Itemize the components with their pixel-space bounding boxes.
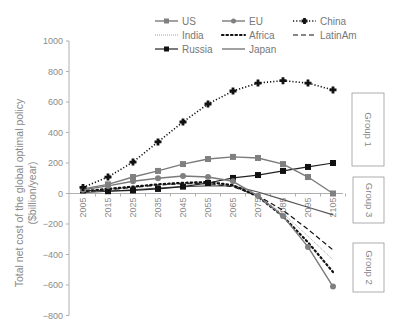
x-square-marker xyxy=(255,172,261,178)
y-tick-label: −400 xyxy=(43,250,63,260)
legend-label: EU xyxy=(249,16,263,27)
x-square-marker xyxy=(330,160,336,166)
x-square-marker xyxy=(180,184,186,190)
chart: USEUChinaIndiaAfricaLatinAmRussiaJapan T… xyxy=(0,0,404,334)
line-china xyxy=(83,81,333,188)
y-tick-label: 600 xyxy=(48,97,63,107)
cross-marker xyxy=(130,159,137,166)
square-marker xyxy=(330,191,336,197)
x-tick-label: 2055 xyxy=(203,198,213,218)
legend-item-china: China xyxy=(293,16,347,27)
square-marker xyxy=(105,181,111,187)
legend-item-india: India xyxy=(155,30,204,41)
cross-marker xyxy=(105,174,112,181)
y-axis-title-line2: ($billion/year) xyxy=(26,161,38,224)
circle-marker xyxy=(180,173,186,179)
cross-marker xyxy=(330,86,337,93)
group-3-annotation: Group 3 xyxy=(353,177,384,223)
x-tick-label: 2035 xyxy=(153,198,163,218)
square-marker xyxy=(280,161,286,167)
series-layer xyxy=(80,77,337,289)
y-tick-label: 200 xyxy=(48,158,63,168)
y-axis-title-line1: Total net cost of the global optimal pol… xyxy=(13,98,25,287)
cross-marker xyxy=(255,80,262,87)
group-1-annotation: Group 1 xyxy=(352,93,384,166)
x-square-marker xyxy=(155,186,161,192)
x-tick-label: 2025 xyxy=(128,198,138,218)
legend-item-eu: EU xyxy=(222,16,263,27)
square-marker xyxy=(180,161,186,167)
legend-label: US xyxy=(182,16,196,27)
x-tick-label: 2015 xyxy=(103,198,113,218)
square-marker xyxy=(130,174,136,180)
x-square-marker xyxy=(105,188,111,194)
group-2-annotation: Group 2 xyxy=(353,243,384,292)
circle-marker xyxy=(155,175,161,181)
legend-item-japan: Japan xyxy=(222,44,276,55)
legend-item-russia: Russia xyxy=(155,44,213,55)
square-marker xyxy=(305,174,311,180)
legend-label: Russia xyxy=(182,44,213,55)
y-tick-label: −200 xyxy=(43,219,63,229)
y-axis-title: Total net cost of the global optimal pol… xyxy=(13,98,38,287)
y-tick-label: 800 xyxy=(48,67,63,77)
cross-marker xyxy=(280,77,287,84)
x-tick-label: 2045 xyxy=(178,198,188,218)
legend-label: China xyxy=(320,16,347,27)
legend-label: Africa xyxy=(249,30,275,41)
cross-marker xyxy=(302,18,308,24)
square-marker xyxy=(164,19,169,24)
legend-label: LatinAm xyxy=(320,30,357,41)
square-marker xyxy=(230,154,236,160)
circle-marker xyxy=(205,174,211,180)
y-tick-label: 400 xyxy=(48,128,63,138)
y-tick-label: 0 xyxy=(58,189,63,199)
square-marker xyxy=(205,156,211,162)
x-square-marker xyxy=(305,164,311,170)
circle-marker xyxy=(255,193,261,199)
cross-marker xyxy=(155,138,162,145)
circle-marker xyxy=(330,284,336,290)
series-china xyxy=(80,77,337,191)
cross-marker xyxy=(305,80,312,87)
legend: USEUChinaIndiaAfricaLatinAmRussiaJapan xyxy=(155,16,357,55)
circle-marker xyxy=(305,244,311,250)
circle-marker xyxy=(231,19,236,24)
line-eu xyxy=(83,176,333,287)
cross-marker xyxy=(230,88,237,95)
y-axis: 10008006004002000−200−400−600−800 xyxy=(43,36,69,321)
x-tick-label: 2065 xyxy=(228,198,238,218)
y-tick-label: −800 xyxy=(43,311,63,321)
x-tick-label: 2075 xyxy=(253,198,263,218)
legend-item-us: US xyxy=(155,16,196,27)
circle-marker xyxy=(230,178,236,184)
y-tick-label: −600 xyxy=(43,280,63,290)
legend-item-latinam: LatinAm xyxy=(293,30,357,41)
group-2-label: Group 2 xyxy=(364,250,375,284)
x-square-marker xyxy=(130,187,136,193)
y-tick-label: 1000 xyxy=(43,36,63,46)
group-1-label: Group 1 xyxy=(363,112,374,146)
legend-label: Japan xyxy=(249,44,276,55)
group-3-label: Group 3 xyxy=(364,183,375,217)
square-marker xyxy=(255,155,261,161)
x-square-marker xyxy=(205,180,211,186)
square-marker xyxy=(155,168,161,174)
x-tick-label: 2005 xyxy=(78,198,88,218)
x-square-marker xyxy=(280,168,286,174)
legend-label: India xyxy=(182,30,204,41)
circle-marker xyxy=(280,213,286,219)
x-square-marker xyxy=(164,47,169,52)
legend-item-africa: Africa xyxy=(222,30,275,41)
cross-marker xyxy=(180,118,187,125)
